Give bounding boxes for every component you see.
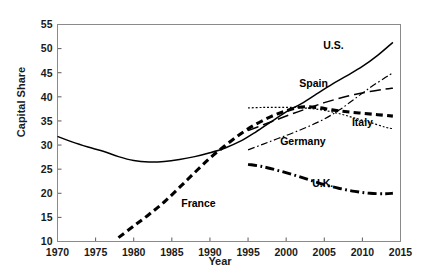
series-label-germany: Germany [280, 135, 326, 147]
capital-share-line-chart: 1970197519801985199019952000200520102015… [0, 0, 431, 274]
series-label-spain: Spain [299, 77, 328, 89]
y-tick-label: 40 [41, 91, 53, 103]
plot-frame [58, 25, 401, 242]
y-axis-title: Capital Share [15, 59, 27, 145]
series-label-layer: U.S.FranceSpainItalyGermanyU.K. [181, 39, 373, 209]
tick-label-layer: 1970197519801985199019952000200520102015… [41, 18, 413, 257]
y-tick-label: 50 [41, 42, 53, 54]
x-tick-label: 1975 [84, 246, 108, 258]
series-label-us: U.S. [323, 39, 344, 51]
series-label-france: France [181, 197, 216, 209]
y-tick-label: 25 [41, 163, 53, 175]
x-tick-label: 2010 [351, 246, 375, 258]
y-tick-label: 55 [41, 18, 53, 30]
y-tick-label: 10 [41, 235, 53, 247]
tick-layer [58, 25, 401, 242]
y-tick-label: 20 [41, 187, 53, 199]
x-tick-label: 2005 [313, 246, 337, 258]
y-tick-label: 15 [41, 211, 53, 223]
series-label-italy: Italy [352, 116, 373, 128]
y-tick-label: 30 [41, 139, 53, 151]
series-layer [58, 42, 393, 237]
series-line-us [58, 42, 393, 162]
series-label-uk: U.K. [312, 177, 333, 189]
x-tick-label: 1980 [122, 246, 146, 258]
x-tick-label: 2015 [389, 246, 413, 258]
y-tick-label: 45 [41, 67, 53, 79]
x-axis-title: Year [160, 255, 280, 267]
chart-canvas: 1970197519801985199019952000200520102015… [0, 0, 431, 274]
y-tick-label: 35 [41, 115, 53, 127]
